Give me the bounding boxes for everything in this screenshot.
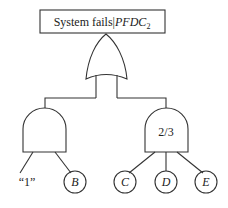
connector-left (45, 98, 96, 108)
event-c-label: C (121, 175, 130, 189)
event-b: B (64, 171, 86, 193)
vote-gate-label: 2/3 (158, 125, 173, 139)
or-gate-shape (86, 34, 127, 79)
event-d-label: D (161, 175, 171, 189)
event-c: C (114, 171, 136, 193)
lead-c (129, 152, 155, 173)
lead-e (177, 152, 203, 173)
event-b-label: B (71, 175, 79, 189)
event-e-label: E (201, 175, 210, 189)
top-event: System fails|PFDC2 (40, 10, 165, 33)
lead-b (55, 152, 71, 173)
or-gate (86, 34, 127, 98)
fault-tree-diagram: System fails|PFDC2 2/3 “1” B C D E (0, 0, 228, 208)
connector-right (117, 98, 166, 108)
vote-gate-right: 2/3 (129, 108, 203, 173)
top-event-label: System fails|PFDC2 (54, 15, 151, 31)
event-e: E (195, 171, 217, 193)
event-d: D (155, 171, 177, 193)
and-gate-left (20, 108, 71, 173)
event-one-label: “1” (19, 175, 36, 189)
lead-one (20, 152, 33, 173)
and-gate-left-shape (23, 108, 66, 152)
